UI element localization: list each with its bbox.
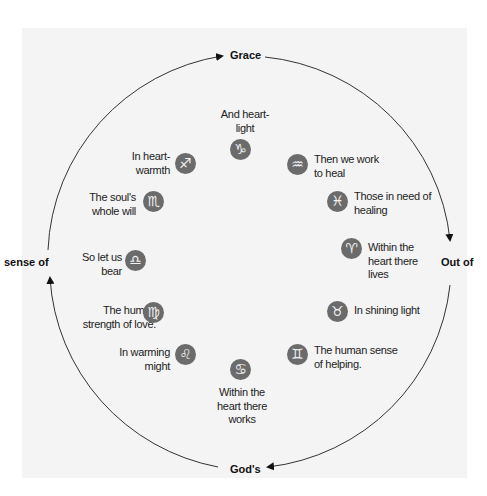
sagittarius-text: In heart-warmth	[100, 150, 170, 177]
cancer-icon: ♋	[230, 359, 251, 380]
virgo-icon: ♍	[143, 302, 164, 323]
taurus-icon: ♉	[327, 301, 348, 322]
aquarius-icon: ♒	[287, 154, 308, 175]
scorpio-icon: ♏	[143, 191, 164, 212]
capricorn-text: And heart-light	[210, 108, 280, 135]
leo-text: In warmingmight	[100, 346, 170, 373]
label-bottom-gods: God's	[230, 463, 261, 475]
gemini-text: The human senseof helping.	[314, 344, 414, 371]
libra-icon: ♎	[125, 250, 146, 271]
aries-icon: ♈	[341, 238, 362, 259]
sagittarius-icon: ♐	[175, 153, 196, 174]
virgo-text: The humanstrength of love.	[60, 304, 156, 331]
gemini-icon: ♊	[287, 344, 308, 365]
leo-icon: ♌	[175, 344, 196, 365]
cancer-text: Within theheart thereworks	[206, 386, 278, 427]
aquarius-text: Then we workto heal	[314, 153, 404, 180]
libra-text: So let usbear	[60, 251, 122, 278]
pisces-icon: ♓	[327, 191, 348, 212]
label-right-out-of: Out of	[441, 256, 473, 268]
scorpio-text: The soul'swhole will	[70, 191, 136, 218]
label-left-sense-of: sense of	[4, 256, 49, 268]
pisces-text: Those in need ofhealing	[354, 190, 454, 217]
capricorn-icon: ♑	[230, 139, 251, 160]
aries-text: Within theheart therelives	[368, 241, 438, 282]
taurus-text: In shining light	[354, 304, 454, 318]
label-top-grace: Grace	[230, 49, 261, 61]
